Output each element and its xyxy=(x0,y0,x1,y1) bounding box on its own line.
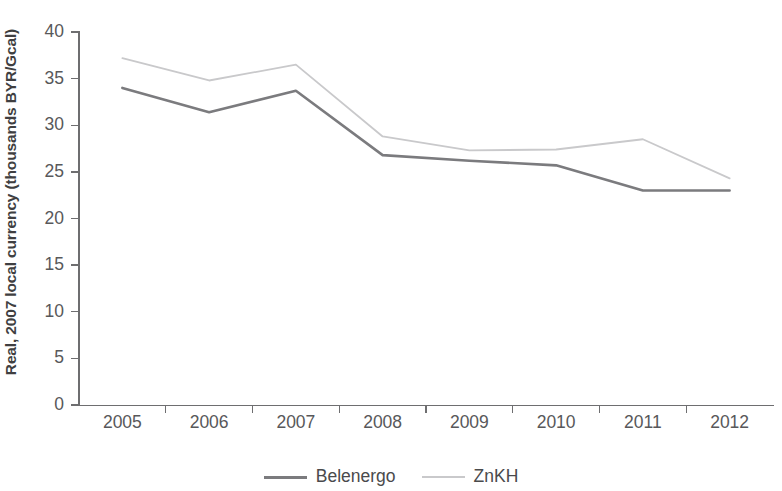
y-tick-mark xyxy=(71,404,79,405)
y-tick-label: 5 xyxy=(18,349,64,367)
legend-swatch-icon xyxy=(264,476,307,479)
x-tick-mark xyxy=(339,405,340,413)
x-tick-label: 2010 xyxy=(512,414,600,432)
x-tick-mark xyxy=(425,405,426,413)
legend-item-belenergo[interactable]: Belenergo xyxy=(264,468,396,486)
x-tick-label: 2009 xyxy=(425,414,513,432)
y-tick-label: 15 xyxy=(18,256,64,274)
y-tick-label: 40 xyxy=(18,23,64,41)
x-tick-mark xyxy=(252,405,253,413)
x-tick-mark xyxy=(599,405,600,413)
y-tick-label: 10 xyxy=(18,303,64,321)
legend-swatch-icon xyxy=(422,476,465,478)
chart-legend: BelenergoZnKH xyxy=(0,463,782,491)
y-tick-mark xyxy=(71,78,79,79)
x-tick-mark xyxy=(512,405,513,413)
series-line-znkh xyxy=(122,58,729,178)
y-tick-mark xyxy=(71,358,79,359)
x-tick-label: 2012 xyxy=(686,414,774,432)
series-lines xyxy=(79,32,773,405)
x-tick-label: 2007 xyxy=(252,414,340,432)
x-tick-label: 2008 xyxy=(339,414,427,432)
x-tick-mark xyxy=(686,405,687,413)
y-tick-mark xyxy=(71,264,79,265)
y-tick-label: 20 xyxy=(18,210,64,228)
x-tick-label: 2011 xyxy=(599,414,687,432)
legend-item-znkh[interactable]: ZnKH xyxy=(422,468,519,486)
legend-label: Belenergo xyxy=(316,468,396,486)
line-chart: Real, 2007 local currency (thousands BYR… xyxy=(0,0,782,491)
y-tick-label: 25 xyxy=(18,163,64,181)
y-tick-mark xyxy=(71,171,79,172)
y-tick-label: 35 xyxy=(18,70,64,88)
y-tick-label: 30 xyxy=(18,116,64,134)
plot-area xyxy=(79,32,773,405)
x-tick-label: 2006 xyxy=(165,414,253,432)
x-tick-mark xyxy=(165,405,166,413)
y-tick-mark xyxy=(71,218,79,219)
y-tick-label: 0 xyxy=(18,396,64,414)
legend-label: ZnKH xyxy=(474,468,519,486)
y-tick-mark xyxy=(71,311,79,312)
y-tick-mark xyxy=(71,125,79,126)
y-tick-mark xyxy=(71,31,79,32)
x-tick-label: 2005 xyxy=(78,414,166,432)
